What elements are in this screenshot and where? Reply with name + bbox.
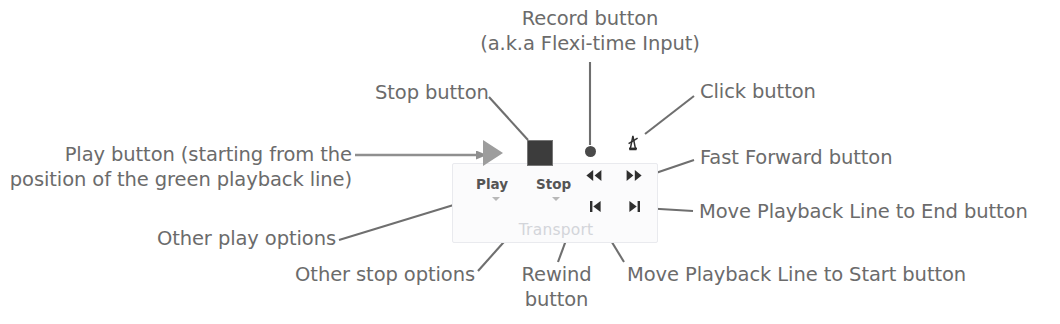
annotation-rewind-line1: Rewind	[484, 262, 629, 287]
record-dot-icon[interactable]	[585, 146, 596, 157]
annotation-move-to-end: Move Playback Line to End button	[699, 199, 1028, 224]
leader-stop	[489, 97, 528, 140]
stop-square-icon[interactable]	[527, 140, 553, 166]
play-triangle-icon[interactable]	[483, 140, 503, 166]
annotation-record-line1: Record button	[450, 6, 730, 31]
annotation-play-line2: position of the green playback line)	[0, 167, 352, 192]
annotation-other-stop-options: Other stop options	[0, 262, 475, 287]
stop-dropdown-caret-icon[interactable]	[552, 197, 560, 201]
annotation-move-to-start: Move Playback Line to Start button	[627, 262, 966, 287]
annotation-click-button: Click button	[700, 79, 816, 104]
play-button-label[interactable]: Play	[476, 176, 508, 192]
skip-to-start-icon[interactable]	[588, 200, 603, 213]
rewind-icon[interactable]	[585, 169, 603, 182]
annotation-record-line2: (a.k.a Flexi-time Input)	[450, 31, 730, 56]
annotation-stop-button: Stop button	[375, 80, 489, 105]
annotation-rewind-line2: button	[484, 287, 629, 312]
leader-click	[645, 96, 694, 134]
annotation-fast-forward: Fast Forward button	[700, 145, 892, 170]
annotation-other-play-options: Other play options	[0, 226, 336, 251]
transport-group-label: Transport	[453, 221, 659, 239]
fast-forward-icon[interactable]	[625, 169, 643, 182]
skip-to-end-icon[interactable]	[627, 200, 642, 213]
play-dropdown-caret-icon[interactable]	[492, 197, 500, 201]
stop-button-label[interactable]: Stop	[536, 176, 571, 192]
metronome-click-icon[interactable]	[625, 134, 641, 151]
annotated-transport-diagram: Transport Play Stop Record button (a.k.a…	[0, 0, 1060, 324]
annotation-play-line1: Play button (starting from the	[0, 142, 352, 167]
